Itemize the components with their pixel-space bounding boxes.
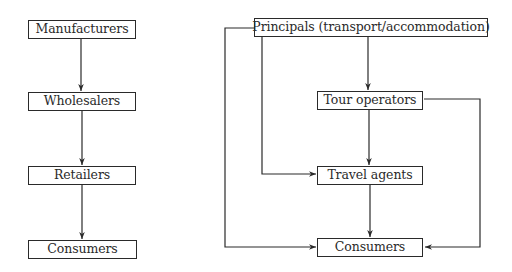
edge-tour-operators-consumers	[424, 99, 480, 247]
node-label: Retailers	[54, 169, 110, 182]
node-label: Consumers	[47, 243, 117, 256]
connector-lines	[0, 0, 512, 272]
node-tour-operators: Tour operators	[317, 91, 423, 110]
node-label: Consumers	[335, 241, 405, 254]
node-label: Tour operators	[324, 94, 417, 107]
node-label: Travel agents	[327, 169, 412, 182]
node-principals: Principals (transport/accommodation)	[254, 18, 488, 37]
node-wholesalers: Wholesalers	[28, 92, 136, 111]
node-retailers: Retailers	[28, 166, 136, 185]
node-label: Principals (transport/accommodation)	[252, 21, 489, 34]
distribution-channels-diagram: Manufacturers Wholesalers Retailers Cons…	[0, 0, 512, 272]
node-manufacturers: Manufacturers	[28, 20, 136, 39]
edge-principals-travel-agents	[262, 37, 316, 174]
edge-principals-consumers	[225, 28, 316, 247]
node-consumers-right: Consumers	[317, 238, 423, 257]
node-travel-agents: Travel agents	[317, 166, 423, 185]
node-label: Manufacturers	[36, 23, 129, 36]
node-consumers-left: Consumers	[28, 240, 137, 259]
node-label: Wholesalers	[44, 95, 120, 108]
